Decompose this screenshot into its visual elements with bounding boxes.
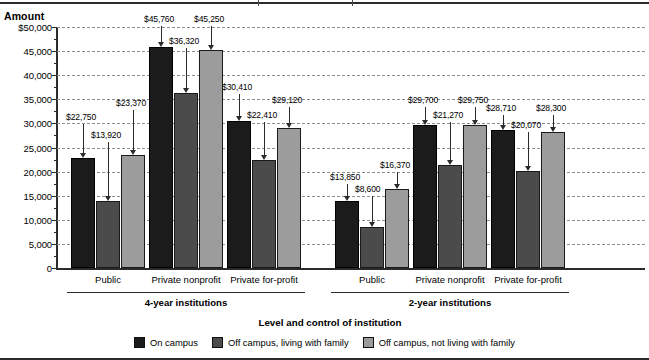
callout-leader-line [475, 107, 476, 120]
bar [413, 125, 437, 268]
y-axis-tick-mark [52, 51, 57, 52]
bar-value-label: $29,120 [272, 95, 302, 105]
bar-value-label: $16,370 [380, 160, 410, 170]
bar-value-label: $45,250 [194, 14, 224, 24]
bar [227, 121, 251, 268]
callout-arrowhead [369, 222, 375, 227]
supergroup-rule [67, 292, 305, 293]
category-label: Private nonprofit [151, 274, 220, 285]
callout-leader-line [83, 124, 84, 153]
y-axis-tick-label: 10,000 [24, 214, 52, 225]
category-label: Private for-profit [494, 274, 562, 285]
legend-swatch-oncampus [134, 337, 145, 348]
y-axis-minor-tick [54, 184, 58, 185]
callout-arrowhead [261, 155, 267, 160]
bar [174, 93, 198, 268]
bar [149, 47, 173, 268]
callout-arrowhead [422, 120, 428, 125]
bar [491, 130, 515, 268]
callout-leader-line [450, 122, 451, 160]
bar-value-label: $28,710 [486, 103, 516, 113]
x-axis-line [56, 268, 645, 270]
y-axis-minor-tick [54, 232, 58, 233]
bar-value-label: $22,410 [247, 110, 277, 120]
category-label: Private nonprofit [415, 274, 484, 285]
bar-value-label: $23,370 [116, 98, 146, 108]
callout-leader-line [239, 94, 240, 116]
category-label: Public [95, 274, 121, 285]
callout-arrowhead [183, 88, 189, 93]
bar-value-label: $28,300 [536, 103, 566, 113]
legend-label: Off campus, not living with family [379, 337, 515, 348]
callout-leader-line [372, 196, 373, 222]
callout-leader-line [425, 107, 426, 120]
top-divider-rule [0, 2, 649, 4]
legend-item[interactable]: Off campus, living with family [212, 337, 349, 348]
callout-leader-line [397, 172, 398, 184]
bar-value-label: $13,920 [91, 130, 121, 140]
bar [438, 165, 462, 268]
callout-leader-line [133, 110, 134, 150]
callout-arrowhead [472, 120, 478, 125]
bar [541, 132, 565, 268]
y-axis-tick-mark [52, 99, 57, 100]
gridline [57, 75, 645, 76]
y-axis-tick-label: 15,000 [24, 190, 52, 201]
callout-arrowhead [130, 150, 136, 155]
gridline [57, 27, 645, 28]
bar-value-label: $20,070 [511, 120, 541, 130]
callout-arrowhead [447, 160, 453, 165]
y-axis-tick-mark [52, 75, 57, 76]
y-axis-minor-tick [54, 63, 58, 64]
callout-leader-line [347, 184, 348, 196]
bar-value-label: $45,760 [144, 14, 174, 24]
bar [516, 171, 540, 268]
callout-arrowhead [236, 116, 242, 121]
bar [335, 201, 359, 268]
y-axis-tick-label: 45,000 [24, 46, 52, 57]
category-label: Public [359, 274, 385, 285]
y-axis-tick-mark [52, 27, 57, 28]
callout-arrowhead [208, 45, 214, 50]
y-axis-tick-label: 5,000 [29, 238, 52, 249]
callout-leader-line [108, 142, 109, 196]
callout-arrowhead [500, 125, 506, 130]
gridline [57, 51, 645, 52]
callout-leader-line [528, 132, 529, 166]
bar-value-label: $21,270 [433, 110, 463, 120]
legend-label: Off campus, living with family [228, 337, 349, 348]
y-axis-minor-tick [54, 160, 58, 161]
bar [252, 160, 276, 268]
callout-arrowhead [105, 196, 111, 201]
bar-value-label: $29,750 [458, 95, 488, 105]
y-axis-minor-tick [54, 135, 58, 136]
bar-value-label: $30,410 [222, 82, 252, 92]
y-axis-minor-tick [54, 39, 58, 40]
bar-value-label: $29,700 [408, 95, 438, 105]
bar [360, 227, 384, 268]
bar [96, 201, 120, 268]
y-axis-minor-tick [54, 256, 58, 257]
callout-leader-line [289, 107, 290, 123]
y-axis-tick-label: 40,000 [24, 70, 52, 81]
gridline [57, 123, 645, 124]
y-axis-tick-label: 30,000 [24, 118, 52, 129]
legend-item[interactable]: Off campus, not living with family [363, 337, 515, 348]
bar [277, 128, 301, 268]
x-axis-title: Level and control of institution [258, 317, 401, 328]
bar [199, 50, 223, 268]
bar [463, 125, 487, 268]
callout-arrowhead [286, 123, 292, 128]
legend-swatch-withfamily [212, 337, 223, 348]
y-axis-tick-mark [52, 220, 57, 221]
legend-item[interactable]: On campus [134, 337, 198, 348]
bar-value-label: $36,320 [169, 36, 199, 46]
y-axis-tick-mark [52, 196, 57, 197]
bar [385, 189, 409, 268]
y-axis-minor-tick [54, 111, 58, 112]
y-axis-minor-tick [54, 87, 58, 88]
y-axis-tick-mark [52, 244, 57, 245]
bar-value-label: $8,600 [355, 184, 380, 194]
bar-value-label: $13,850 [330, 172, 360, 182]
category-label: Private for-profit [230, 274, 298, 285]
